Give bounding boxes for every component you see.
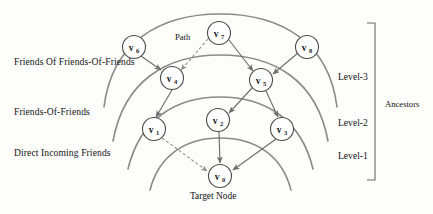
node-v0-label: v <box>215 172 220 182</box>
node-v7[interactable]: v 7 <box>208 22 231 45</box>
edge-v2-v0 <box>219 132 220 163</box>
edge-v6-v4 <box>141 56 161 70</box>
node-v1-subscript: 1 <box>156 129 159 136</box>
edge-v5-v3 <box>266 91 278 117</box>
node-v4[interactable]: v 4 <box>161 67 184 90</box>
label-target-node: Target Node <box>190 191 236 201</box>
node-v5-label: v <box>256 76 261 86</box>
label-friends-of-friends-of-friends: Friends Of Friends-Of-Friends <box>14 56 135 67</box>
node-v4-label: v <box>167 74 172 84</box>
label-direct-incoming-friends: Direct Incoming Friends <box>14 147 111 158</box>
label-path: Path <box>175 32 190 42</box>
node-v8-label: v <box>302 43 307 53</box>
diagram-canvas: v 7 v 6 v 8 v 4 v 5 <box>0 0 433 214</box>
node-v1[interactable]: v 1 <box>143 118 166 141</box>
node-v8[interactable]: v 8 <box>296 36 319 59</box>
label-ancestors: Ancestors <box>385 99 419 109</box>
ancestors-bracket <box>367 23 375 180</box>
node-v3-label: v <box>277 125 282 135</box>
label-level-2: Level-2 <box>338 117 368 128</box>
node-v1-label: v <box>149 125 154 135</box>
node-v5[interactable]: v 5 <box>250 69 273 92</box>
label-level-1: Level-1 <box>338 150 368 161</box>
edge-v7-v4 <box>181 39 208 70</box>
node-v3[interactable]: v 3 <box>271 118 294 141</box>
label-friends-of-friends: Friends-Of-Friends <box>14 106 90 117</box>
bracket-path <box>367 23 375 180</box>
node-v0-subscript: 0 <box>222 176 225 183</box>
node-v0[interactable]: v 0 <box>209 165 232 188</box>
edge-v1-v0 <box>162 138 207 171</box>
node-v2-subscript: 2 <box>220 120 223 127</box>
node-v2-label: v <box>213 116 218 126</box>
node-v7-label: v <box>214 29 219 39</box>
node-v2[interactable]: v 2 <box>207 109 230 132</box>
node-v6-label: v <box>129 43 134 53</box>
graph-edges <box>141 39 298 171</box>
edge-v8-v5 <box>273 53 298 74</box>
label-level-3: Level-3 <box>338 71 368 82</box>
